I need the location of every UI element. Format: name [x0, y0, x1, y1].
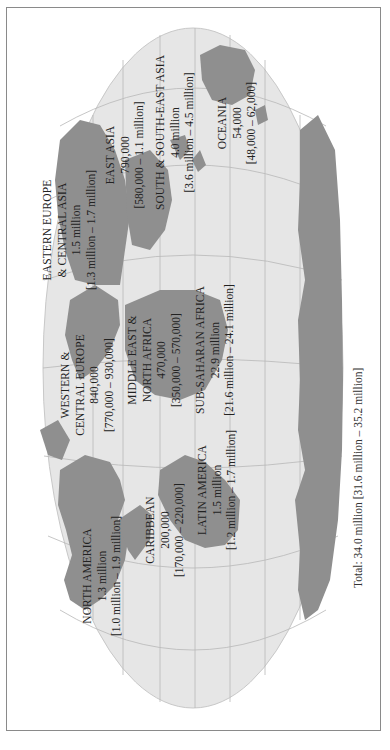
label-eastern-europe-central-asia: EASTERN EUROPE & CENTRAL ASIA 1.5 millio…: [40, 145, 98, 315]
label-western-central-europe: WESTERN & CENTRAL EUROPE 840,000 [770,00…: [58, 310, 116, 460]
label-south-south-east-asia: SOUTH & SOUTH-EAST ASIA 4.0 million [3.6…: [153, 45, 197, 220]
label-east-asia: EAST ASIA 790,000 [580,000 – 1.1 million…: [103, 90, 147, 220]
label-sub-saharan-africa: SUB-SAHARAN AFRICA 22.9 million [21.6 mi…: [193, 260, 237, 440]
label-middle-east-north-africa: MIDDLE EAST & NORTH AFRICA 470,000 [350,…: [125, 285, 183, 435]
label-caribbean: CARIBBEAN 200,000 [170,000 – 220,000]: [143, 455, 187, 605]
land-antarctica: [295, 115, 343, 620]
label-oceania: OCEANIA 54,000 [48,000 – 62,000]: [215, 58, 259, 188]
label-north-america: NORTH AMERICA 1.3 million [1.0 million –…: [80, 476, 124, 676]
total-label: Total: 34.0 million [31.6 million – 35.2…: [352, 368, 364, 588]
